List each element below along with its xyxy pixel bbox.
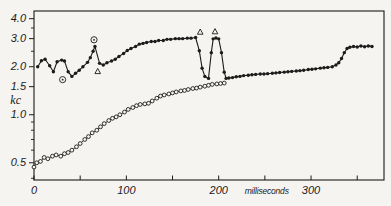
filled-circle-marker [165,38,168,41]
filled-circle-marker [298,69,301,72]
open-circle-marker [95,128,99,132]
open-circle-marker [59,154,63,158]
filled-circle-marker [331,65,334,68]
filled-circle-marker [310,67,313,70]
open-circle-marker [54,153,58,157]
filled-circle-marker [259,72,262,75]
filled-circle-marker [343,51,346,54]
open-circle-marker [215,82,219,86]
filled-circle-marker [181,37,184,40]
open-circle-marker [155,96,159,100]
open-circle-marker [114,115,118,119]
filled-circle-marker [348,46,351,49]
open-circle-marker [195,86,199,90]
open-circle-marker [186,88,190,92]
filled-circle-marker [334,63,337,66]
filled-circle-marker [271,72,274,75]
filled-circle-marker [220,51,223,54]
filled-circle-marker [326,66,329,69]
open-circle-marker [78,142,82,146]
filled-circle-marker [129,47,132,50]
filled-circle-marker [227,76,230,79]
filled-circle-marker [114,57,117,60]
filled-circle-marker [91,50,94,53]
x-axis-unit-label: milliseconds [245,186,290,196]
filled-circle-marker [370,45,373,48]
filled-circle-marker [150,40,153,43]
circle-dot-marker-center [93,39,95,41]
filled-circle-marker [223,70,226,73]
open-circle-marker [179,89,183,93]
open-circle-marker [107,119,111,123]
open-circle-marker [126,108,130,112]
y-tick-label: 1.5 [11,80,27,92]
filled-circle-marker [174,37,177,40]
y-tick-label: 4.0 [11,12,27,24]
filled-circle-marker [157,39,160,42]
filled-circle-marker [138,42,141,45]
filled-circle-marker [74,72,77,75]
filled-circle-marker [122,52,125,55]
open-circle-marker [70,148,74,152]
filled-circle-marker [337,61,340,64]
filled-circle-marker [363,45,366,48]
filled-circle-marker [81,65,84,68]
plot-frame [34,11,384,180]
filled-circle-marker [89,56,92,59]
filled-circle-marker [250,73,253,76]
circle-dot-marker-center [62,79,64,81]
filled-circle-marker [177,37,180,40]
filled-circle-marker [235,75,238,78]
open-circle-marker [219,82,223,86]
filled-circle-marker [238,75,241,78]
filled-circle-marker [207,77,210,80]
filled-circle-marker [36,65,39,68]
series-line-filled-circle-trace [38,38,372,79]
filled-circle-marker [162,39,165,42]
open-circle-marker [35,161,39,165]
filled-circle-marker [117,55,120,58]
filled-circle-marker [93,45,96,48]
filled-circle-marker [295,69,298,72]
filled-circle-marker [200,66,203,69]
chart-canvas: 0100200milliseconds3004.03.02.01.51.00.5… [0,0,391,206]
open-circle-marker [32,165,36,169]
open-circle-marker [118,113,122,117]
filled-circle-marker [290,70,293,73]
open-circle-marker [87,135,91,139]
open-circle-marker [147,101,151,105]
filled-circle-marker [194,36,197,39]
filled-circle-marker [86,61,89,64]
open-circle-marker [39,160,43,164]
open-circle-marker [162,93,166,97]
open-circle-marker [183,89,187,93]
open-circle-marker [174,90,178,94]
filled-circle-marker [231,76,234,79]
filled-circle-marker [66,70,69,73]
x-tick-label: 200 [209,184,229,196]
open-circle-marker [42,156,46,160]
open-circle-marker [191,87,195,91]
filled-circle-marker [314,67,317,70]
open-circle-marker [138,103,142,107]
triangle-marker [95,68,101,73]
filled-circle-marker [134,45,137,48]
filled-circle-marker [110,59,113,62]
filled-circle-marker [254,73,257,76]
y-axis-unit-label: kc [10,93,21,107]
filled-circle-marker [262,72,265,75]
filled-circle-marker [210,51,213,54]
open-circle-marker [75,145,79,149]
filled-circle-marker [43,57,46,60]
y-tick-label: 1.0 [11,108,27,120]
x-tick-label: 100 [117,184,136,196]
filled-circle-marker [102,63,105,66]
open-circle-marker [210,82,214,86]
triangle-marker [197,29,203,34]
filled-circle-marker [169,38,172,41]
filled-circle-marker [278,71,281,74]
open-circle-marker [123,110,127,114]
filled-circle-marker [40,59,43,62]
filled-circle-marker [105,61,108,64]
open-circle-marker [131,106,135,110]
